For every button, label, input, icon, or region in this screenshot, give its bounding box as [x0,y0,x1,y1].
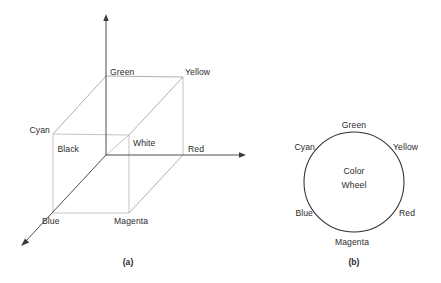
color-wheel-center-line2: Wheel [342,180,367,190]
panel-a-group: Black Green Yellow Cyan White Red Blue M… [21,14,246,267]
edge-cyan-green [53,76,106,134]
wheel-label-blue: Blue [295,208,313,218]
cube-vertex-labels: Black Green Yellow Cyan White Red Blue M… [30,67,211,226]
figure-root: Black Green Yellow Cyan White Red Blue M… [0,0,441,283]
panel-b-group: Color Wheel Green Yellow Red Magenta Blu… [295,120,419,267]
panel-a-caption: (a) [123,257,134,267]
axis-vertical-arrow-icon [103,14,108,21]
cube-label-magenta: Magenta [114,216,148,226]
axis-diagonal-line [25,155,106,242]
wheel-label-yellow: Yellow [393,142,419,152]
cube-label-green: Green [110,67,135,77]
edge-black-white [106,135,129,155]
wheel-label-cyan: Cyan [295,142,316,152]
cube-label-yellow: Yellow [185,67,211,77]
edge-white-yellow [129,77,183,135]
color-wheel-center-line1: Color [343,166,364,176]
axis-diagonal-arrow-icon [21,239,29,246]
edge-cyan-white [53,134,129,135]
axis-horizontal-arrow-icon [239,152,246,157]
edge-magenta-red [129,155,183,213]
cube-label-white: White [133,138,156,148]
color-models-figure: Black Green Yellow Cyan White Red Blue M… [0,0,441,283]
wheel-label-green: Green [342,120,367,130]
panel-b-caption: (b) [349,257,360,267]
wheel-label-red: Red [399,208,415,218]
cube-label-blue: Blue [42,216,60,226]
cube-label-cyan: Cyan [30,125,51,135]
cube-label-black: Black [57,144,79,154]
cube-label-red: Red [188,144,204,154]
wheel-label-magenta: Magenta [335,237,369,247]
